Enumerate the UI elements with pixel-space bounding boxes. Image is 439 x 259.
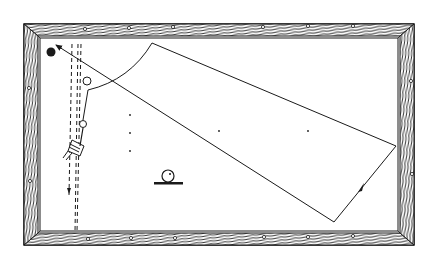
object-ball-lower (80, 121, 87, 128)
black-ball (47, 48, 56, 57)
rail-top (24, 24, 414, 36)
rail-bottom (24, 233, 414, 245)
object-ball-upper (83, 77, 91, 85)
rail-left (24, 24, 38, 245)
billiards-diagram (0, 0, 439, 259)
rail-right (400, 24, 414, 245)
playing-surface (40, 38, 398, 231)
